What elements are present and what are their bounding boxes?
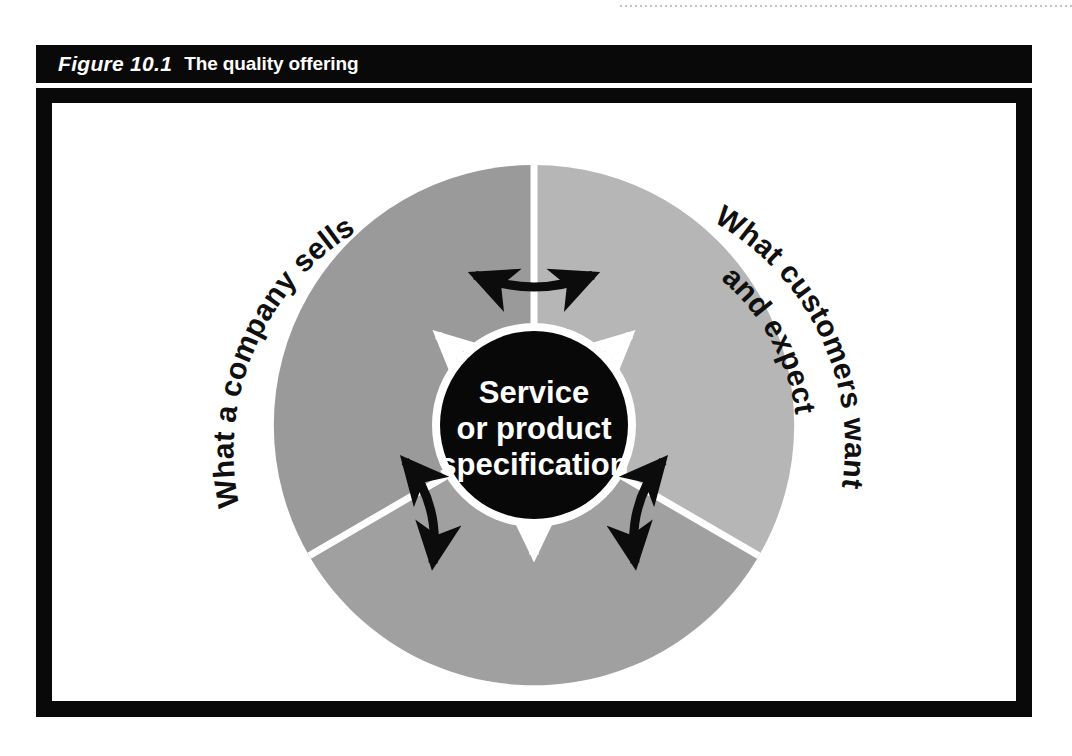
figure-caption-bar: Figure 10.1 The quality offering [36, 45, 1032, 83]
centre-label-line2: or product [457, 411, 612, 446]
centre-label-line1: Service [479, 375, 589, 410]
diagram-svg: What a company sells What customers want… [52, 103, 1016, 701]
figure-frame: What a company sells What customers want… [36, 88, 1032, 717]
centre-label-line3: specification [439, 447, 629, 482]
figure-number-label: Figure 10.1 [58, 52, 172, 76]
quality-offering-diagram: What a company sells What customers want… [52, 103, 1016, 701]
figure-block: Figure 10.1 The quality offering [36, 45, 1032, 717]
figure-frame-inner: What a company sells What customers want… [52, 103, 1016, 701]
scan-artifact-dotted-line [620, 5, 1072, 7]
figure-title: The quality offering [184, 53, 358, 75]
